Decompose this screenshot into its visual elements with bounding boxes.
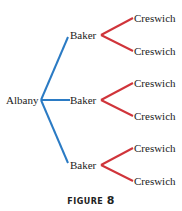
red-edges	[101, 18, 133, 181]
node-creswich-4: Creswich	[134, 110, 176, 122]
node-baker-2: Baker	[70, 94, 96, 106]
node-baker-3: Baker	[70, 159, 96, 171]
caption-prefix: FIGURE	[67, 197, 103, 206]
blue-edges	[41, 37, 70, 163]
node-creswich-6: Creswich	[134, 175, 176, 187]
node-creswich-1: Creswich	[134, 12, 176, 24]
node-creswich-3: Creswich	[134, 77, 176, 89]
node-creswich-5: Creswich	[134, 142, 176, 154]
figure-caption: FIGURE 8	[0, 194, 182, 207]
node-baker-1: Baker	[70, 29, 96, 41]
caption-number: 8	[107, 194, 115, 207]
node-creswich-2: Creswich	[134, 45, 176, 57]
node-albany: Albany	[6, 94, 38, 106]
